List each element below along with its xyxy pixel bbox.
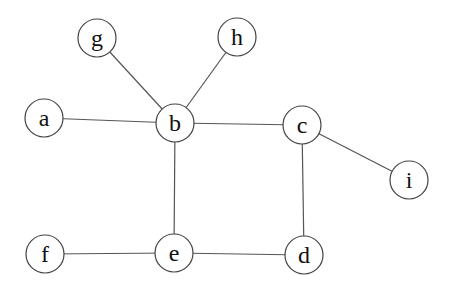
- node-label: i: [406, 167, 413, 193]
- graph-diagram: abcdefghi: [0, 0, 457, 291]
- node-label: h: [231, 24, 243, 50]
- edge-a-b: [44, 118, 175, 123]
- node-h: h: [218, 18, 256, 56]
- node-label: d: [298, 242, 310, 268]
- node-label: e: [169, 240, 180, 266]
- node-g: g: [78, 19, 116, 57]
- node-i: i: [390, 161, 428, 199]
- node-b: b: [156, 104, 194, 142]
- node-d: d: [285, 236, 323, 274]
- node-f: f: [26, 235, 64, 273]
- node-a: a: [25, 99, 63, 137]
- nodes-layer: abcdefghi: [25, 18, 428, 274]
- node-e: e: [155, 234, 193, 272]
- node-label: b: [169, 110, 181, 136]
- edges-layer: [44, 37, 409, 255]
- node-label: g: [91, 25, 103, 51]
- node-c: c: [283, 106, 321, 144]
- node-label: f: [41, 241, 49, 267]
- node-label: c: [297, 112, 308, 138]
- node-label: a: [39, 105, 50, 131]
